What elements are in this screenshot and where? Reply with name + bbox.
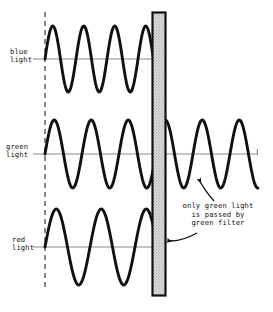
arrow-to-filter	[168, 233, 198, 241]
filter-bar-body	[153, 13, 166, 296]
label-blue-light: blue light	[10, 48, 32, 64]
annotation-text: only green light is passed by green filt…	[168, 202, 268, 228]
figure-canvas: blue light green light red light only gr…	[0, 0, 273, 312]
label-green-light: green light	[6, 143, 28, 159]
green-filter-bar	[153, 13, 166, 296]
label-red-light: red light	[12, 236, 34, 252]
wave-filter-diagram	[0, 0, 273, 312]
arrow-to-transmitted-wave	[199, 179, 214, 201]
